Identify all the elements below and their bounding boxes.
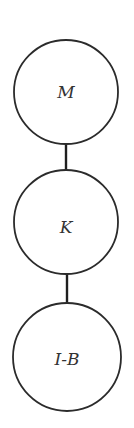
node-k-label: K	[59, 217, 74, 237]
node-m-label: M	[56, 82, 75, 102]
tree-diagram: M K I-B	[0, 0, 134, 428]
node-m: M	[14, 40, 118, 144]
node-ib: I-B	[13, 303, 121, 411]
node-k: K	[14, 170, 118, 274]
node-ib-label: I-B	[54, 349, 80, 369]
